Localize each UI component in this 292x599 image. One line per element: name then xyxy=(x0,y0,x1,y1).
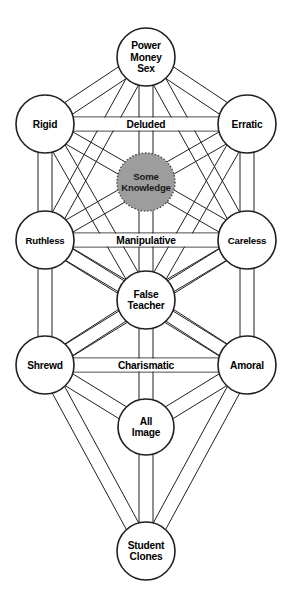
node-kingdom-label-line: Clones xyxy=(130,551,163,562)
node-kingdom: StudentClones xyxy=(117,522,175,580)
edge-right-lower-to-foundation xyxy=(165,374,226,419)
edge-crown-to-right-upper xyxy=(166,67,228,115)
tree-diagram: DeludedManipulativeCharismatic PowerMone… xyxy=(0,0,292,599)
edge-left-lower-to-foundation xyxy=(65,374,126,419)
edge-right-mid-to-right-lower xyxy=(240,268,254,337)
edge-center-to-left-lower xyxy=(65,309,126,355)
path-manipulative-label: Manipulative xyxy=(116,235,176,246)
node-right-lower: Amoral xyxy=(218,336,276,394)
node-right-mid-label-line: Careless xyxy=(228,235,266,246)
path-charismatic-label: Charismatic xyxy=(118,360,175,371)
node-kingdom-label-line: Student xyxy=(128,540,165,551)
edge-foundation-to-kingdom xyxy=(139,454,153,523)
nodes-layer: PowerMoneySexRigidErraticSomeKnowledgeRu… xyxy=(16,28,276,580)
edge-right-mid-to-center xyxy=(167,248,227,291)
path-manipulative: Manipulative xyxy=(73,234,219,247)
node-left-lower: Shrewd xyxy=(16,336,74,394)
edge-left-upper-to-left-mid xyxy=(38,152,52,212)
node-left-mid: Ruthless xyxy=(16,211,74,269)
path-charismatic: Charismatic xyxy=(73,359,219,372)
path-deluded: Deluded xyxy=(73,118,219,131)
node-hidden-label-line: Knowledge xyxy=(121,182,170,193)
node-right-upper: Erratic xyxy=(218,95,276,153)
node-right-lower-label-line: Amoral xyxy=(230,360,264,371)
node-right-mid: Careless xyxy=(218,211,276,269)
edge-center-to-right-lower xyxy=(166,309,227,355)
node-crown-label-line: Sex xyxy=(137,63,155,74)
node-center: FalseTeacher xyxy=(117,271,175,329)
node-left-upper-label-line: Rigid xyxy=(33,119,57,130)
edge-left-mid-to-center xyxy=(66,248,126,291)
node-left-upper: Rigid xyxy=(16,95,74,153)
node-foundation-label-line: All xyxy=(140,416,153,427)
node-crown-label-line: Power xyxy=(131,40,161,51)
node-left-lower-label-line: Shrewd xyxy=(27,360,63,371)
tree-diagram-canvas: DeludedManipulativeCharismatic PowerMone… xyxy=(0,0,292,599)
node-left-mid-label-line: Ruthless xyxy=(26,235,65,246)
node-hidden-label-line: Some xyxy=(133,171,158,182)
node-hidden: SomeKnowledge xyxy=(117,153,175,211)
node-center-label-line: False xyxy=(133,289,159,300)
node-center-label-line: Teacher xyxy=(128,300,165,311)
edge-left-mid-to-left-lower xyxy=(38,268,52,337)
edge-crown-to-left-upper xyxy=(65,67,127,115)
node-foundation-label-line: Image xyxy=(132,427,161,438)
edge-right-upper-to-right-mid xyxy=(240,152,254,212)
node-crown: PowerMoneySex xyxy=(117,28,175,86)
node-crown-label-line: Money xyxy=(130,52,162,63)
path-deluded-label: Deluded xyxy=(127,119,166,130)
node-foundation: AllImage xyxy=(118,399,174,455)
node-right-upper-label-line: Erratic xyxy=(232,119,263,130)
